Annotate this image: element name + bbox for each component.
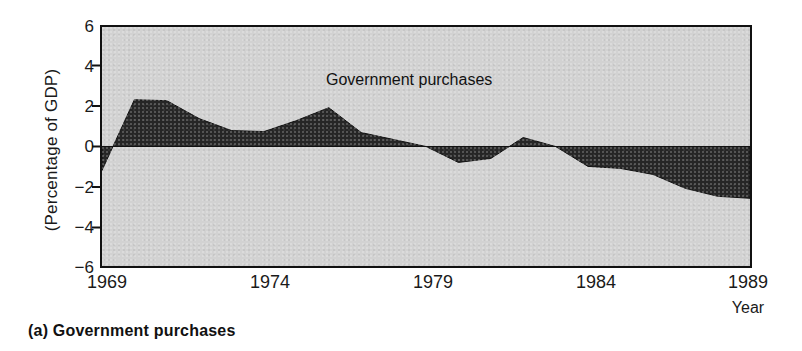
figure-government-purchases: (Percentage of GDP) 6 4 2 0 −2 −4 −6 Gov… <box>0 0 802 351</box>
x-tick-label-1989: 1989 <box>728 272 768 293</box>
x-axis-tick-labels: 1969 1974 1979 1984 1989 <box>0 272 802 302</box>
y-axis-ticks <box>88 25 102 268</box>
x-axis-title: Year <box>732 299 764 317</box>
series-annotation-label: Government purchases <box>326 71 492 89</box>
x-tick-label-1974: 1974 <box>250 272 290 293</box>
area-series-government-purchases <box>102 100 750 199</box>
chart-canvas <box>102 27 750 266</box>
x-tick-label-1979: 1979 <box>413 272 453 293</box>
plot-area: Government purchases <box>100 25 752 268</box>
x-tick-label-1984: 1984 <box>576 272 616 293</box>
figure-caption: (a) Government purchases <box>28 322 236 340</box>
x-tick-label-1969: 1969 <box>87 272 127 293</box>
